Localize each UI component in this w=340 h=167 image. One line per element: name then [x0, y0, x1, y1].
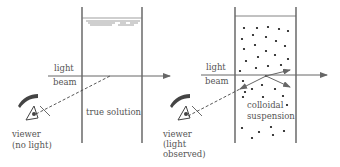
right-viewer-label-line1: viewer [162, 129, 193, 139]
true-solution-panel: light beam true solution viewer (no ligh… [11, 7, 170, 150]
colloidal-label: colloidal [247, 100, 284, 110]
right-beam-label-beam: beam [205, 76, 229, 86]
eye-icon [170, 94, 202, 120]
left-beam-label-light: light [54, 63, 74, 73]
scattered-ray-left [240, 76, 266, 89]
right-viewer-label-line2: (light [163, 139, 187, 149]
tyndall-effect-diagram: light beam true solution viewer (no ligh… [0, 0, 340, 167]
scattered-ray-down [266, 76, 290, 87]
colloid-particles [239, 26, 289, 139]
colloidal-suspension-panel: light beam colloidal suspension viewer (… [162, 7, 327, 159]
left-viewer-label-line2: (no light) [12, 140, 52, 150]
liquid-surface [82, 18, 142, 25]
eye-icon [18, 94, 50, 120]
suspension-label: suspension [247, 111, 295, 121]
left-viewer-label-line1: viewer [11, 129, 42, 139]
right-line-of-sight [188, 89, 240, 116]
true-solution-label: true solution [86, 107, 142, 117]
right-viewer-label-line3: observed) [163, 149, 206, 159]
right-beam-label-light: light [206, 62, 226, 72]
left-beam-label-beam: beam [53, 77, 77, 87]
